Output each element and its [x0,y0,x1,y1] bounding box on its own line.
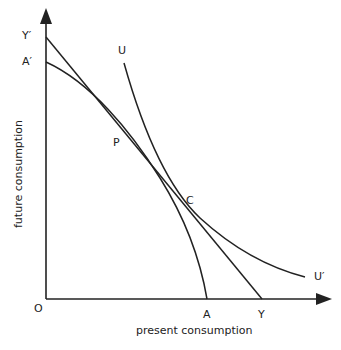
label-a-prime: A′ [22,55,33,68]
production-possibility-curve [46,62,207,299]
label-y: Y [257,308,265,321]
label-y-prime: Y′ [21,29,32,42]
label-a: A [203,308,211,321]
y-axis-arrow-icon [40,8,52,24]
label-origin: O [34,302,43,315]
x-axis-arrow-icon [316,293,332,305]
intertemporal-choice-diagram: Y′ A′ U P C U′ O A Y present consumption… [0,0,341,350]
label-p: P [113,136,120,149]
x-axis-title: present consumption [136,324,253,337]
label-c: C [186,194,194,207]
label-u: U [118,44,126,57]
y-axis-title: future consumption [12,120,25,228]
indifference-curve [124,63,305,277]
label-u-prime: U′ [314,270,325,283]
